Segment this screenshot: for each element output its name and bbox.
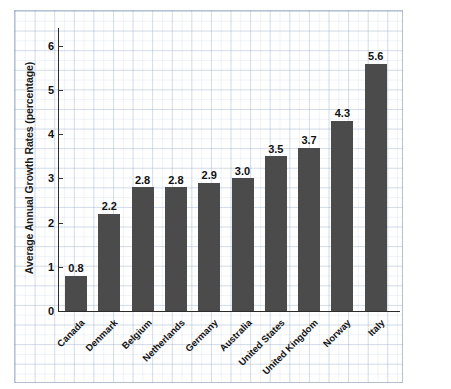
bar-value-united-kingdom: 3.7 (301, 134, 316, 146)
y-tick-label-3: 3 (38, 172, 54, 184)
y-tick-mark-5 (58, 90, 63, 91)
bar-denmark (98, 214, 120, 311)
y-tick-label-0: 0 (38, 305, 54, 317)
y-tick-mark-1 (58, 267, 63, 268)
bar-value-italy: 5.6 (368, 50, 383, 62)
y-tick-label-5: 5 (38, 84, 54, 96)
y-tick-mark-6 (58, 46, 63, 47)
bar-value-norway: 4.3 (335, 107, 350, 119)
bar-chart: Average Annual Growth Rates (percentage)… (0, 0, 451, 389)
bar-belgium (132, 187, 154, 311)
bar-united-kingdom (298, 148, 320, 312)
bar-value-denmark: 2.2 (102, 200, 117, 212)
bar-netherlands (165, 187, 187, 311)
y-tick-mark-3 (58, 178, 63, 179)
bar-value-australia: 3.0 (235, 165, 250, 177)
bar-value-germany: 2.9 (202, 169, 217, 181)
bar-value-belgium: 2.8 (135, 174, 150, 186)
bar-united-states (265, 156, 287, 311)
bar-australia (232, 178, 254, 311)
y-tick-label-1: 1 (38, 261, 54, 273)
y-tick-mark-4 (58, 134, 63, 135)
bar-value-united-states: 3.5 (268, 143, 283, 155)
y-axis-line (58, 28, 59, 312)
bar-germany (198, 183, 220, 311)
y-tick-label-2: 2 (38, 217, 54, 229)
bar-value-canada: 0.8 (68, 262, 83, 274)
y-axis-title: Average Annual Growth Rates (percentage) (23, 53, 35, 283)
bar-value-netherlands: 2.8 (168, 174, 183, 186)
bar-norway (331, 121, 353, 311)
y-tick-label-6: 6 (38, 40, 54, 52)
y-tick-label-4: 4 (38, 128, 54, 140)
bar-canada (65, 276, 87, 311)
bar-italy (365, 64, 387, 312)
y-tick-mark-2 (58, 223, 63, 224)
x-axis-line (58, 311, 400, 312)
